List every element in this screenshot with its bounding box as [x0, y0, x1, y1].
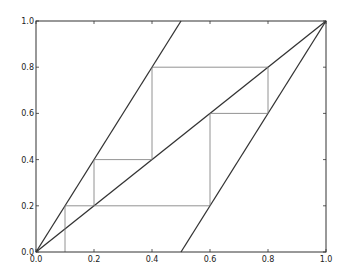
- series-line-2: [36, 21, 326, 252]
- series-line-3: [65, 67, 268, 252]
- plot-lines: [36, 21, 326, 252]
- y-tick-label: 0.0: [21, 248, 34, 257]
- x-tick-label: 1.0: [320, 255, 333, 264]
- y-tick-label: 0.6: [21, 109, 34, 118]
- x-tick-label: 0.4: [146, 255, 159, 264]
- y-tick-label: 0.2: [21, 202, 34, 211]
- series-line-0: [36, 21, 181, 252]
- x-tick-label: 0.6: [204, 255, 217, 264]
- y-tick-label: 0.4: [21, 156, 34, 165]
- x-tick-label: 0.8: [262, 255, 275, 264]
- series-line-1: [181, 21, 326, 252]
- y-axis-tick-labels: 0.00.20.40.60.81.0: [21, 17, 34, 257]
- y-tick-label: 1.0: [21, 17, 34, 26]
- x-axis-tick-labels: 0.00.20.40.60.81.0: [30, 255, 333, 264]
- cobweb-chart: 0.00.20.40.60.81.0 0.00.20.40.60.81.0: [0, 0, 345, 272]
- y-tick-label: 0.8: [21, 63, 34, 72]
- x-tick-label: 0.2: [88, 255, 101, 264]
